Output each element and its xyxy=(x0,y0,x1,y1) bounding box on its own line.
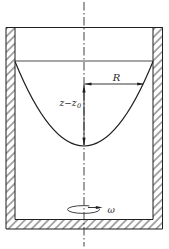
height-arrowhead-down-icon xyxy=(82,138,85,146)
height-arrowhead-up-icon xyxy=(82,85,85,93)
height-label: z−z xyxy=(58,98,76,108)
angular-velocity-label: ω xyxy=(108,205,116,215)
rotation-arrow xyxy=(68,204,103,214)
height-dimension xyxy=(82,85,85,146)
radius-arrowhead-left-icon xyxy=(85,83,92,86)
radius-dimension xyxy=(85,83,144,86)
height-label-subscript: 0 xyxy=(77,102,81,110)
rotating-vessel-diagram: R z−z 0 ω xyxy=(0,0,169,249)
diagram-svg: R z−z 0 ω xyxy=(0,0,169,249)
radius-label: R xyxy=(112,72,121,83)
